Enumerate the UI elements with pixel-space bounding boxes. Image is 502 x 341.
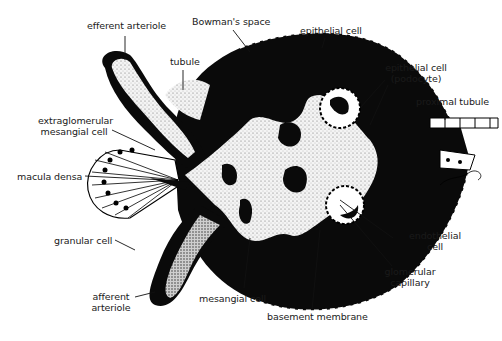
- label-glomerular-line1: glomerular: [375, 266, 445, 277]
- label-endothelial-line2: cell: [400, 241, 470, 252]
- label-glomerular-line2: capillary: [375, 277, 445, 288]
- label-afferent-line1: afferent: [86, 291, 136, 302]
- label-extraglomerular-line1: extraglomerular: [38, 115, 110, 126]
- label-endothelial-cell: endothelial cell: [400, 230, 470, 252]
- label-efferent-arteriole: efferent arteriole: [87, 20, 166, 31]
- label-mesangial-cell: mesangial cell: [199, 293, 266, 304]
- label-tubule: tubule: [170, 56, 200, 67]
- label-glomerular-capillary: glomerular capillary: [375, 266, 445, 288]
- label-epithelial-cell: epithelial cell: [300, 25, 362, 36]
- label-podocyte: epithelial cell (podocyte): [378, 62, 454, 84]
- label-extraglomerular-mesangial-cell: extraglomerular mesangial cell: [38, 115, 110, 137]
- label-endothelial-line1: endothelial: [400, 230, 470, 241]
- label-podocyte-line1: epithelial cell: [378, 62, 454, 73]
- label-afferent-arteriole: afferent arteriole: [86, 291, 136, 313]
- label-granular-cell: granular cell: [54, 235, 112, 246]
- label-afferent-line2: arteriole: [86, 302, 136, 313]
- label-macula-densa: macula densa: [17, 171, 82, 182]
- label-basement-membrane: basement membrane: [267, 311, 368, 322]
- label-extraglomerular-line2: mesangial cell: [38, 126, 110, 137]
- label-proximal-tubule: proximal tubule: [416, 96, 489, 107]
- label-podocyte-line2: (podocyte): [378, 73, 454, 84]
- label-bowmans-space: Bowman's space: [192, 16, 270, 27]
